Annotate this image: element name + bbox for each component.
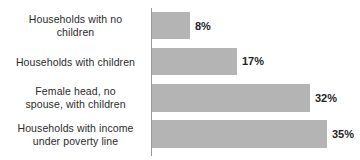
category-label-line1: Households with children (16, 56, 135, 68)
category-label: Households with no children (6, 13, 145, 39)
bar (152, 12, 190, 39)
bar (152, 48, 237, 75)
chart-row: Female head, no spouse, with children 32… (0, 83, 360, 115)
bar-value-label: 8% (195, 21, 211, 32)
chart-row: Households with income under poverty lin… (0, 119, 360, 153)
chart-row: Households with children 17% (0, 47, 360, 77)
bar-value-label: 32% (315, 93, 337, 104)
category-label-line1: Female head, no (35, 85, 115, 97)
bar (152, 120, 327, 148)
chart-row: Households with no children 8% (0, 10, 360, 42)
category-label-line1: Households with income (17, 122, 133, 134)
bar-value-label: 17% (242, 56, 264, 67)
category-label: Households with children (6, 56, 145, 69)
category-label: Female head, no spouse, with children (6, 85, 145, 111)
category-label-line2: children (57, 26, 95, 38)
plot-area: Households with no children 8% Household… (0, 0, 360, 160)
category-label-line1: Households with no (29, 13, 122, 25)
horizontal-bar-chart: Households with no children 8% Household… (0, 0, 360, 160)
category-label-line2: spouse, with children (25, 98, 125, 110)
bar-value-label: 35% (332, 129, 354, 140)
bar (152, 84, 310, 112)
category-label-line2: under poverty line (33, 135, 118, 147)
category-label: Households with income under poverty lin… (6, 122, 145, 148)
